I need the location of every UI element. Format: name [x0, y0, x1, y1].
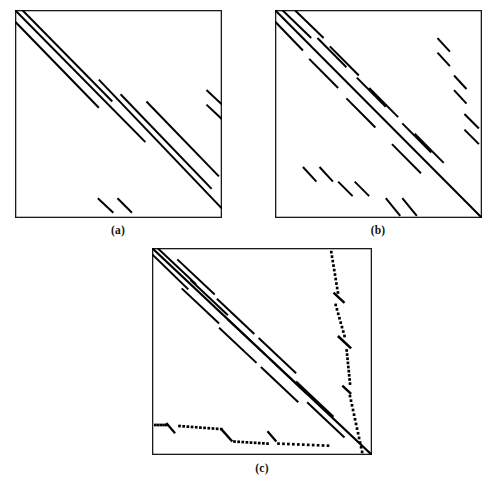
dot [157, 424, 160, 427]
panel-a-band-line-3 [15, 21, 99, 107]
panel-b-offdiag-r2-b [454, 90, 466, 104]
panel-a-offdiag-top-right-2 [206, 105, 222, 120]
panel-c-border-dash-r1 [334, 293, 345, 303]
panel-b [275, 10, 482, 218]
dot [349, 382, 352, 385]
dot [187, 425, 190, 428]
dot [339, 321, 342, 324]
dot [337, 291, 340, 294]
dot [348, 374, 351, 377]
panel-b-offdiag-b1-a [303, 167, 316, 182]
dot [333, 269, 336, 272]
dot [250, 441, 253, 444]
panel-b-main-diagonal [275, 10, 482, 218]
dot [241, 441, 244, 444]
dot [347, 370, 350, 373]
dot [360, 446, 363, 449]
dot [162, 424, 165, 427]
panel-a-band-line-6 [146, 102, 218, 177]
panel-b-band-dash-m3 [346, 98, 375, 127]
dot [212, 427, 215, 430]
panel-a-plot [15, 10, 222, 218]
panel-a [15, 10, 222, 218]
panel-c-border-column-dots-lower [345, 349, 351, 385]
dot [348, 378, 351, 381]
panel-a-offdiag-bottom-2 [117, 198, 131, 213]
dot [349, 395, 352, 398]
sparsity-pattern-figure: (a) (b) (c) [0, 0, 501, 490]
panel-c-band-dash-2 [191, 280, 228, 315]
panel-c-band-dash-4 [217, 299, 254, 334]
panel-a-band-line-4 [99, 80, 222, 209]
dot [327, 444, 330, 447]
dot [262, 442, 265, 445]
dot [361, 451, 364, 454]
panel-c-band-dash-8 [270, 359, 307, 394]
panel-c-border-dash-r3 [342, 386, 351, 394]
panel-b-band-dash-m2 [369, 88, 398, 117]
dot [332, 264, 335, 267]
dot [336, 308, 339, 311]
dot [330, 251, 333, 254]
panel-c-band-dash-7 [259, 338, 296, 373]
dot [322, 444, 325, 447]
dot [359, 441, 362, 444]
dot [266, 442, 269, 445]
dot [338, 317, 341, 320]
panel-b-offdiag-r3-b [464, 130, 478, 145]
panel-b-offdiag-r1-a [437, 38, 449, 52]
panel-b-band-dash-l1 [402, 123, 431, 152]
dot [345, 349, 348, 352]
dot [159, 424, 162, 427]
dot [237, 440, 240, 443]
dot [334, 273, 337, 276]
dot [195, 426, 198, 429]
panel-c-caption: (c) [222, 462, 302, 474]
dot [203, 427, 206, 430]
panel-c-border-column-dots-mid [334, 304, 345, 338]
panel-b-offdiag-r2-a [454, 76, 466, 90]
panel-b-band-dash-l3 [392, 144, 421, 173]
panel-b-offdiag-r1-b [437, 53, 449, 67]
dot [331, 260, 334, 263]
dot [307, 444, 310, 447]
panel-c-border-dash-r2 [338, 336, 351, 348]
dot [312, 444, 315, 447]
panel-c-plot [152, 248, 372, 455]
panel-b-plot [275, 10, 482, 218]
panel-b-band-dash-u6 [309, 59, 338, 88]
dot [335, 282, 338, 285]
panel-a-offdiag-top-right-1 [206, 90, 222, 105]
panel-c-band-dash-10 [296, 382, 333, 417]
dot [336, 287, 339, 290]
panel-b-caption: (b) [338, 224, 418, 236]
panel-b-offdiag-b1-b [320, 167, 333, 182]
dot [233, 440, 236, 443]
panel-a-offdiag-bottom-1 [98, 198, 114, 213]
panel-a-band-line-2 [22, 10, 112, 102]
panel-a-band-line-1 [15, 10, 145, 142]
dot [277, 442, 280, 445]
dot [350, 399, 353, 402]
dot [178, 425, 181, 428]
dot [347, 366, 350, 369]
dot [154, 424, 157, 427]
panel-c-band-dash-9 [261, 367, 298, 402]
panel-b-band-dash-u5 [330, 46, 359, 75]
panel-c [152, 248, 372, 455]
dot [353, 413, 356, 416]
panel-b-band-dash-u4 [317, 38, 346, 67]
panel-c-border-dash-b2 [221, 429, 232, 441]
panel-c-band-dash-11 [307, 402, 344, 437]
dot [258, 442, 261, 445]
dot [354, 418, 357, 421]
panel-b-offdiag-b3-b [402, 198, 416, 216]
dot [199, 426, 202, 429]
dot [356, 427, 359, 430]
panel-a-caption: (a) [78, 224, 158, 236]
dot [342, 330, 345, 333]
panel-c-border-row-dots-tail [277, 442, 329, 447]
panel-c-border-dash-b3 [268, 431, 277, 441]
dot [207, 427, 210, 430]
panel-c-border-row-dots-left [154, 424, 168, 427]
